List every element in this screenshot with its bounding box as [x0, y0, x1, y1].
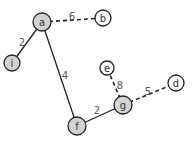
- edge-weight-g-e: 8: [117, 80, 123, 91]
- node-a: a: [33, 13, 51, 31]
- edge-weight-a-b: 6: [69, 11, 75, 22]
- node-i: i: [4, 55, 20, 71]
- node-e: e: [100, 61, 114, 75]
- nodes-layer: abifged: [4, 10, 184, 135]
- node-f: f: [68, 117, 86, 135]
- edge-weight-f-g: 2: [94, 105, 100, 116]
- node-g: g: [114, 96, 132, 114]
- node-label-f: f: [75, 121, 79, 132]
- node-d: d: [168, 75, 184, 91]
- graph-diagram: 624285 abifged: [0, 0, 194, 141]
- edge-weight-a-i: 2: [19, 37, 25, 48]
- node-label-e: e: [104, 63, 110, 74]
- node-label-i: i: [11, 58, 14, 69]
- node-label-a: a: [39, 17, 45, 28]
- edge-weight-g-d: 5: [145, 86, 151, 97]
- node-b: b: [95, 10, 111, 26]
- node-label-b: b: [100, 13, 106, 24]
- edge-a-f: [42, 22, 77, 126]
- node-label-g: g: [120, 100, 126, 111]
- node-label-d: d: [173, 78, 179, 89]
- edge-weight-a-f: 4: [62, 70, 68, 81]
